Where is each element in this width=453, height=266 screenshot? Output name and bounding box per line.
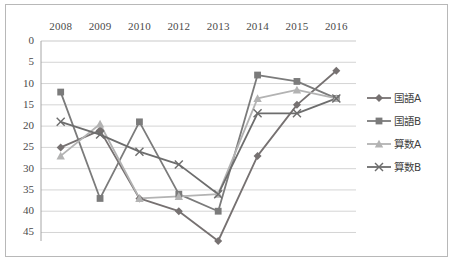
y-axis-tick-25: 25 (4, 140, 34, 152)
square-marker-icon (136, 118, 143, 125)
square-marker-icon (254, 72, 261, 79)
y-axis-tick-20: 20 (4, 119, 34, 131)
legend-label: 国語A (394, 90, 421, 105)
plot-area (41, 41, 356, 241)
y-axis-tick-45: 45 (4, 225, 34, 237)
legend-label: 国語B (394, 113, 421, 128)
square-marker-icon (215, 208, 222, 215)
chart-container: 20082009201020122013201420152016 0510152… (0, 0, 453, 266)
square-marker-icon (366, 114, 392, 128)
cross-marker-icon (366, 160, 392, 174)
triangle-marker-icon (96, 120, 104, 128)
diamond-marker-icon (375, 94, 383, 102)
series-line (61, 75, 337, 211)
series-lines (41, 41, 356, 241)
y-axis-tick-30: 30 (4, 162, 34, 174)
legend-item-算数B[interactable]: 算数B (366, 155, 446, 178)
legend-item-国語B[interactable]: 国語B (366, 109, 446, 132)
triangle-marker-icon (366, 137, 392, 151)
chart-legend: 国語A国語B算数A算数B (366, 86, 446, 178)
y-axis-tick-10: 10 (4, 77, 34, 89)
y-axis-tick-15: 15 (4, 98, 34, 110)
y-axis-tick-5: 5 (4, 55, 34, 67)
square-marker-icon (57, 89, 64, 96)
y-axis-tick-35: 35 (4, 183, 34, 195)
y-axis-tick-0: 0 (4, 34, 34, 46)
square-marker-icon (294, 78, 301, 85)
y-axis-tick-40: 40 (4, 204, 34, 216)
series-line (61, 71, 337, 241)
square-marker-icon (376, 117, 383, 124)
diamond-marker-icon (366, 91, 392, 105)
legend-label: 算数A (394, 136, 421, 151)
diamond-marker-icon (57, 143, 65, 151)
legend-item-国語A[interactable]: 国語A (366, 86, 446, 109)
legend-label: 算数B (394, 159, 421, 174)
legend-item-算数A[interactable]: 算数A (366, 132, 446, 155)
square-marker-icon (97, 195, 104, 202)
series-line (61, 98, 337, 194)
triangle-marker-icon (293, 86, 301, 94)
x-axis-tick-2016: 2016 (311, 20, 361, 32)
